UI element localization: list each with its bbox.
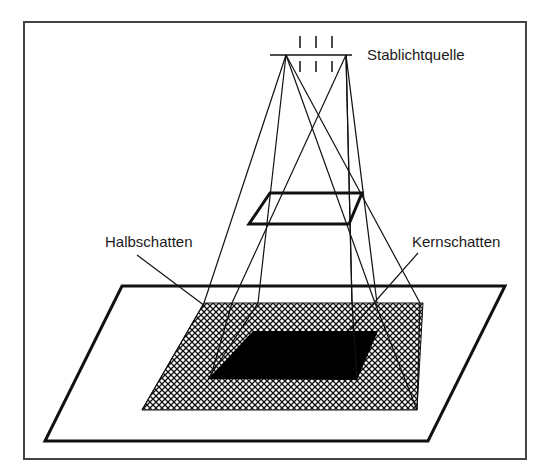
light-source-label: Stablichtquelle — [367, 46, 465, 63]
umbra-label: Kernschatten — [412, 233, 500, 250]
shadow-diagram: Stablichtquelle Halbschatten Kernschatte… — [0, 0, 550, 473]
penumbra-label: Halbschatten — [105, 233, 193, 250]
